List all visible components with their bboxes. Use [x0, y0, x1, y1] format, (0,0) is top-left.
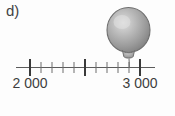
worksheet-item-panel: d) 2 0003 000 — [0, 0, 175, 116]
scan-edge — [0, 0, 175, 116]
